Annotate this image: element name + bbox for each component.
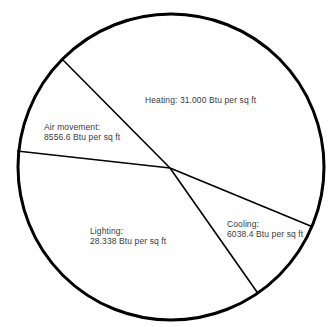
air-movement-label-name: Air movement: [44,122,120,132]
cooling-label-value: 6038.4 Btu per sq ft [227,229,303,239]
lighting-label-name: Lighting: [90,226,166,236]
lighting-label: Lighting: 28.338 Btu per sq ft [90,226,166,246]
heating-label: Heating: 31.000 Btu per sq ft [145,95,256,105]
heating-label-text: Heating: 31.000 Btu per sq ft [145,95,256,105]
pie-chart [0,0,336,327]
air-movement-label-value: 8556.6 Btu per sq ft [44,132,120,142]
air-movement-label: Air movement: 8556.6 Btu per sq ft [44,122,120,142]
cooling-label-name: Cooling: [227,219,303,229]
cooling-label: Cooling: 6038.4 Btu per sq ft [227,219,303,239]
lighting-label-value: 28.338 Btu per sq ft [90,236,166,246]
